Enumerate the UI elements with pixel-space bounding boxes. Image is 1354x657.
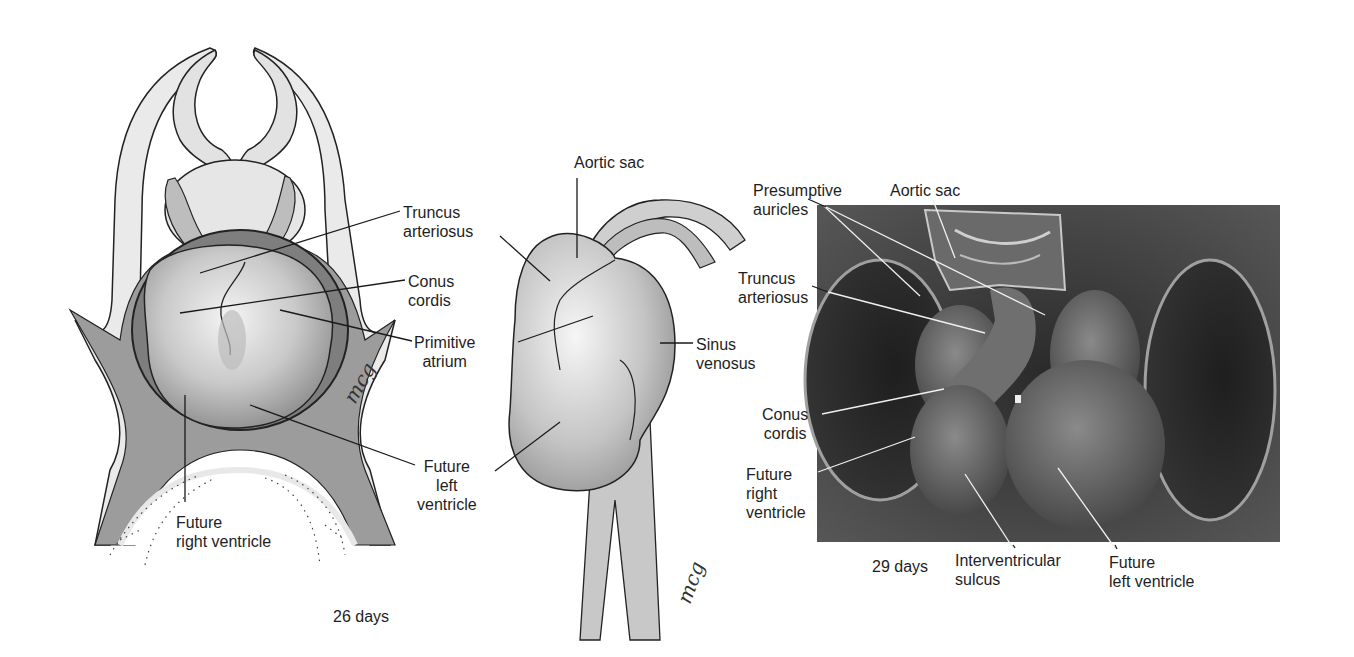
label-conus-cordis-ventral: Conus cordis — [408, 272, 454, 310]
svg-text:mcg: mcg — [672, 558, 709, 607]
label-aortic-sac-lateral: Aortic sac — [574, 153, 644, 172]
label-future-right-ventricle-ventral: Future right ventricle — [176, 513, 271, 551]
label-truncus-arteriosus-sem: Truncus arteriosus — [738, 269, 808, 307]
ventral-view-drawing: mcg — [70, 48, 395, 565]
label-sinus-venosus: Sinus venosus — [696, 335, 756, 373]
label-future-left-ventricle-ventral: Future left ventricle — [417, 457, 477, 514]
lateral-view-drawing: mcg — [509, 200, 745, 640]
label-aortic-sac-sem: Aortic sac — [890, 181, 960, 200]
label-future-right-ventricle-sem: Future right ventricle — [746, 465, 806, 522]
caption-29-days: 29 days — [872, 557, 928, 576]
label-truncus-arteriosus-ventral: Truncus arteriosus — [403, 203, 473, 241]
label-primitive-atrium: Primitive atrium — [414, 333, 475, 371]
label-interventricular-sulcus: Interventricular sulcus — [955, 551, 1061, 589]
label-future-left-ventricle-sem: Future left ventricle — [1109, 553, 1194, 591]
label-presumptive-auricles: Presumptive auricles — [753, 181, 842, 219]
caption-26-days: 26 days — [333, 607, 389, 626]
label-conus-cordis-sem: Conus cordis — [762, 405, 808, 443]
